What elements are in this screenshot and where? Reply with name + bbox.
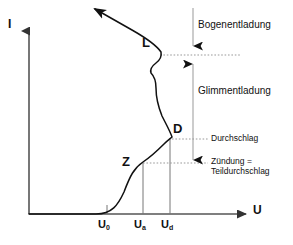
region-label-bogenentladung: Bogenentladung xyxy=(198,19,271,30)
tick-base-u0: U xyxy=(98,218,106,230)
tick-label-ua: Ua xyxy=(134,218,146,230)
point-label-d: D xyxy=(173,122,182,137)
zuendung-line2: Teildurchschlag xyxy=(211,167,270,177)
point-label-l: L xyxy=(142,36,150,51)
region-label-glimmentladung: Glimmentladung xyxy=(198,85,271,96)
tick-sub-ud: d xyxy=(169,224,173,231)
point-label-z: Z xyxy=(122,155,130,170)
tick-label-u0: U0 xyxy=(98,218,110,230)
region-label-durchschlag: Durchschlag xyxy=(211,134,258,144)
x-axis-label: U xyxy=(253,204,262,217)
zuendung-line1: Zündung = xyxy=(211,156,252,166)
tick-label-ud: Ud xyxy=(161,218,173,230)
tick-sub-ua: a xyxy=(142,224,146,231)
tick-base-ua: U xyxy=(134,218,142,230)
region-label-zuendung: Zündung = Teildurchschlag xyxy=(211,157,270,176)
y-axis-label: I xyxy=(8,18,11,31)
discharge-curve xyxy=(29,9,172,214)
tick-sub-u0: 0 xyxy=(106,224,110,231)
tick-base-ud: U xyxy=(161,218,169,230)
discharge-characteristic-chart: I U L D Z U0 Ua Ud Bogenentladung Glimme… xyxy=(0,0,293,245)
